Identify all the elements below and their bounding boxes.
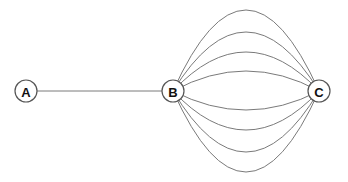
edge-b-c-1	[173, 10, 319, 91]
edge-b-c-5	[173, 91, 319, 110]
node-b: B	[162, 80, 184, 102]
node-b-label: B	[168, 85, 177, 100]
edge-b-c-7	[173, 91, 319, 152]
graph-diagram: A B C	[0, 0, 348, 182]
node-a-label: A	[21, 85, 31, 100]
edge-b-c-2	[173, 32, 319, 91]
node-c: C	[308, 80, 330, 102]
node-c-label: C	[314, 85, 324, 100]
edge-b-c-8	[173, 91, 319, 172]
edge-b-c-4	[173, 71, 319, 91]
node-a: A	[15, 80, 37, 102]
